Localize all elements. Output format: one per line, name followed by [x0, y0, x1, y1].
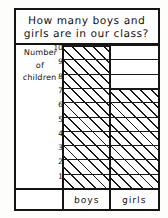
category-row: boys girls [16, 188, 158, 209]
category-label-girls: girls [122, 195, 147, 205]
chart-title: How many boys and girls are in our class… [21, 14, 153, 40]
category-row-spacer [16, 190, 64, 209]
gridline-10 [64, 45, 158, 46]
y-tick-label-9: 9 [50, 58, 63, 66]
plot-area [64, 45, 158, 188]
category-cell-girls: girls [111, 190, 158, 209]
y-tick-label-4: 4 [50, 130, 63, 138]
gridline-3 [64, 145, 158, 146]
y-tick-label-8: 8 [50, 73, 63, 81]
y-tick-label-2: 2 [50, 158, 63, 166]
chart-title-line-2: girls are in our class? [24, 27, 149, 40]
category-label-boys: boys [73, 195, 99, 205]
chart-frame: How many boys and girls are in our class… [14, 8, 160, 211]
gridline-4 [64, 131, 158, 132]
y-tick-label-5: 5 [50, 116, 63, 124]
y-tick-label-7: 7 [50, 87, 63, 95]
gridline-2 [64, 159, 158, 160]
title-box: How many boys and girls are in our class… [16, 10, 158, 45]
gridline-8 [64, 74, 158, 75]
y-axis-ticks: 12345678910 [50, 45, 64, 188]
y-tick-label-10: 10 [50, 44, 63, 52]
gridline-5 [64, 117, 158, 118]
gridline-1 [64, 174, 158, 175]
y-tick-label-3: 3 [50, 144, 63, 152]
gridline-6 [64, 102, 158, 103]
worksheet-bar-chart: How many boys and girls are in our class… [0, 0, 168, 218]
chart-body: Number of children 12345678910 [16, 45, 158, 209]
y-tick-label-1: 1 [50, 173, 63, 181]
category-cell-boys: boys [64, 190, 111, 209]
gridline-9 [64, 59, 158, 60]
y-tick-label-6: 6 [50, 101, 63, 109]
gridline-7 [64, 88, 158, 89]
chart-title-line-1: How many boys and [24, 14, 149, 27]
